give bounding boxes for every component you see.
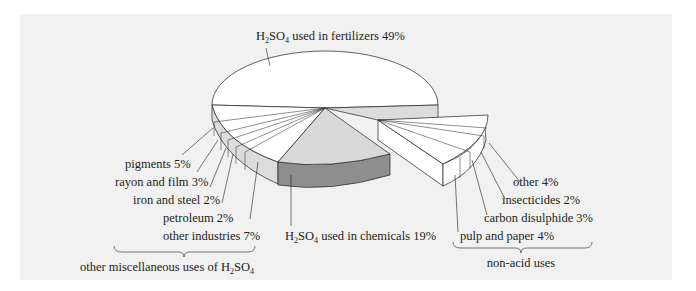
brace-misc (114, 246, 255, 257)
label-other: other 4% (513, 175, 558, 189)
label-pulp-paper: pulp and paper 4% (460, 229, 554, 243)
label-misc-group: other miscellaneous uses of H2SO4 (80, 260, 254, 276)
label-other-industries: other industries 7% (163, 229, 260, 243)
label-carbon-disulphide: carbon disulphide 3% (484, 211, 593, 225)
label-petroleum: petroleum 2% (163, 211, 233, 225)
slice-fertilizers-top (212, 51, 438, 108)
label-chemicals: H2SO4 used in chemicals 19% (285, 229, 436, 245)
label-fertilizers: H2SO4 used in fertilizers 49% (256, 29, 405, 45)
label-iron-steel: iron and steel 2% (133, 193, 220, 207)
brace-nonacid (453, 242, 592, 253)
label-insecticides: insecticides 2% (502, 193, 580, 207)
label-pigments: pigments 5% (125, 157, 191, 171)
label-nonacid-group: non-acid uses (487, 256, 556, 270)
pie-chart: H2SO4 used in fertilizers 49% pigments 5… (0, 0, 696, 291)
label-rayon: rayon and film 3% (115, 175, 208, 189)
